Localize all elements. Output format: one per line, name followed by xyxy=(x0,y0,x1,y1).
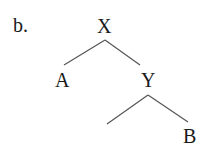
edge-x-y xyxy=(105,40,140,65)
node-a: A xyxy=(55,70,69,90)
tree-diagram: b. X A Y B xyxy=(0,0,212,155)
edge-y-b xyxy=(148,95,188,122)
node-b: B xyxy=(183,126,196,146)
node-y: Y xyxy=(141,70,155,90)
node-x: X xyxy=(97,16,111,36)
edge-y-empty xyxy=(107,95,148,124)
edge-x-a xyxy=(64,40,105,65)
